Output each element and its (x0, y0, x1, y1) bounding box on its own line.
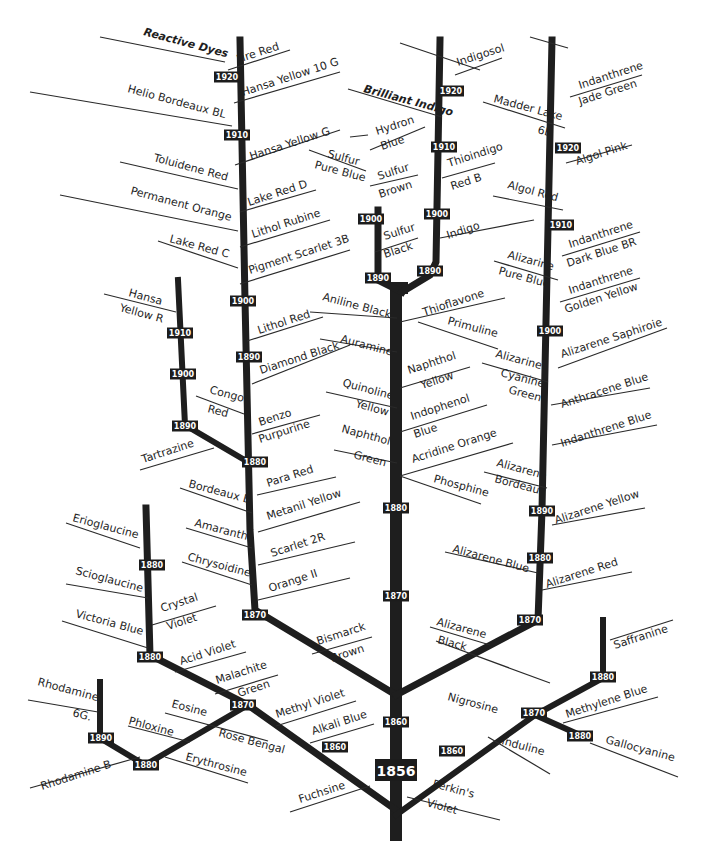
year-marker: 1910 (167, 328, 193, 339)
year-marker: 1900 (537, 326, 563, 337)
dye-label: Erythrosine (184, 750, 248, 779)
dye-label: Rose Bengal (217, 726, 286, 756)
dye-label: Rhodamine B (39, 758, 113, 793)
svg-text:1870: 1870 (244, 611, 267, 620)
svg-text:1910: 1910 (550, 221, 573, 230)
dye-label: Toluidene Red (151, 151, 229, 184)
leader-line (350, 135, 368, 137)
year-marker: 1870 (517, 615, 543, 626)
dye-label: Rhodamine (36, 675, 100, 704)
svg-text:1880: 1880 (385, 504, 408, 513)
year-marker: 1890 (172, 421, 198, 432)
dye-label: Methylene Blue (564, 682, 650, 721)
dye-label: Saffranine (612, 622, 670, 652)
svg-text:1890: 1890 (367, 274, 390, 283)
svg-text:1870: 1870 (519, 616, 542, 625)
dye-label: Lithol Rubine (250, 206, 322, 241)
svg-text:1900: 1900 (172, 370, 195, 379)
dye-label: Violet (425, 796, 459, 817)
svg-text:1860: 1860 (441, 747, 464, 756)
svg-text:1870: 1870 (523, 709, 546, 718)
dye-label: Hansa Yellow G (248, 125, 332, 163)
dye-label: Naphthol (340, 422, 392, 447)
dye-label: Chrysoidine (186, 550, 252, 579)
svg-text:1880: 1880 (135, 761, 158, 770)
dye-label: Lithol Red (256, 308, 312, 337)
svg-text:1880: 1880 (244, 458, 267, 467)
dye-label: 6G. (71, 706, 93, 723)
svg-text:1870: 1870 (232, 701, 255, 710)
year-marker: 1890 (236, 352, 262, 363)
dye-label: Diamond Black (258, 339, 341, 377)
year-marker: 1900 (424, 209, 450, 220)
year-marker: 1880 (137, 652, 163, 663)
year-marker: 1880 (383, 503, 409, 514)
dye-label: Hydron (374, 113, 416, 138)
dye-family-tree: Reactive DyesFire RedHansa Yellow 10 GHe… (0, 0, 701, 856)
svg-text:1860: 1860 (385, 718, 408, 727)
year-marker: 1920 (555, 143, 581, 154)
dye-label: Indigo (445, 219, 482, 242)
svg-text:1900: 1900 (360, 215, 383, 224)
dye-label: Aniline Black (321, 290, 393, 321)
dye-label: Nigrosine (446, 690, 500, 716)
year-marker: 1870 (230, 700, 256, 711)
year-marker: 1900 (230, 296, 256, 307)
year-marker: 1856 (375, 759, 417, 781)
year-marker: 1900 (170, 369, 196, 380)
dye-label: Induline (500, 734, 546, 758)
dye-label: Black (436, 633, 469, 653)
svg-text:1900: 1900 (539, 327, 562, 336)
dye-label: Phloxine (127, 714, 175, 739)
year-marker: 1890 (88, 733, 114, 744)
svg-text:1880: 1880 (529, 554, 552, 563)
dye-label: Green (352, 448, 388, 469)
svg-text:1880: 1880 (139, 653, 162, 662)
dye-label: Auramine (339, 332, 394, 358)
year-marker: 1880 (527, 553, 553, 564)
year-marker: 1870 (242, 610, 268, 621)
year-marker: 1890 (365, 273, 391, 284)
dye-label: Yellow (418, 369, 455, 392)
year-marker: 1870 (383, 591, 409, 602)
svg-text:1920: 1920 (216, 73, 239, 82)
dye-label: Algol Pink (574, 139, 630, 168)
dye-label: Lake Red C (168, 232, 231, 260)
svg-text:1890: 1890 (90, 734, 113, 743)
year-marker: 1870 (521, 708, 547, 719)
dye-label: Quinoline (341, 376, 395, 402)
year-marker: 1880 (139, 560, 165, 571)
year-marker: 1890 (529, 506, 555, 517)
dye-label: Blue (412, 421, 439, 441)
dye-label: Para Red (265, 462, 315, 489)
svg-text:1900: 1900 (232, 297, 255, 306)
dye-label: Gallocyanine (604, 733, 676, 764)
dye-label: Victoria Blue (74, 607, 145, 638)
year-marker: 1920 (214, 72, 240, 83)
year-marker: 1880 (590, 672, 616, 683)
svg-text:1920: 1920 (557, 144, 580, 153)
svg-text:1910: 1910 (169, 329, 192, 338)
svg-text:1900: 1900 (426, 210, 449, 219)
year-marker: 1880 (133, 760, 159, 771)
dye-label: Alizarene Red (544, 555, 620, 591)
dye-label: Metanil Yellow (265, 486, 343, 522)
dye-label: Red (206, 402, 230, 420)
year-marker: 1890 (417, 266, 443, 277)
year-marker: 1920 (438, 86, 464, 97)
dye-label: Reactive Dyes (142, 25, 230, 60)
svg-text:1880: 1880 (141, 561, 164, 570)
dye-label: Lake Red D (246, 177, 309, 209)
year-marker: 1910 (224, 130, 250, 141)
year-marker: 1900 (358, 214, 384, 225)
dye-label: Congo (208, 383, 246, 405)
dye-label: Red B (449, 171, 483, 193)
dye-label: Phosphine (432, 472, 490, 499)
year-marker: 1860 (383, 717, 409, 728)
year-marker: 1880 (242, 457, 268, 468)
dye-label: Scioglaucine (74, 564, 145, 595)
year-marker: 1860 (322, 742, 348, 753)
svg-text:1890: 1890 (238, 353, 261, 362)
dye-label: Indophenol (409, 392, 471, 423)
dye-label: Violet (165, 611, 199, 633)
